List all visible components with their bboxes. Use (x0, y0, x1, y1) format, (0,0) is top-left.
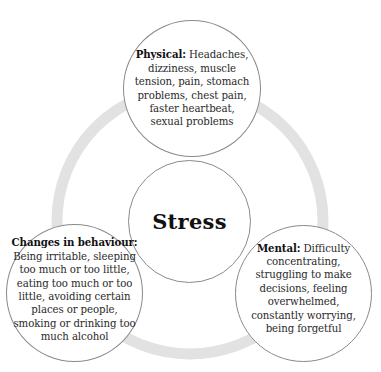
stress-title: Stress (152, 209, 227, 234)
mental-description: Difficulty concentrating, struggling to … (251, 243, 356, 334)
mental-heading: Mental: (257, 242, 300, 254)
behaviour-heading: Changes in behaviour: (12, 236, 138, 248)
stress-center-circle: Stress (128, 160, 251, 283)
physical-symptoms-circle: Physical: Headaches, dizziness, muscle t… (123, 20, 261, 157)
behaviour-changes-text: Changes in behaviour: Being irritable, s… (12, 236, 138, 343)
physical-heading: Physical: (136, 48, 186, 60)
physical-description: Headaches, dizziness, muscle tension, pa… (135, 49, 250, 127)
behaviour-changes-circle: Changes in behaviour: Being irritable, s… (6, 224, 143, 362)
mental-symptoms-circle: Mental: Difficulty concentrating, strugg… (235, 225, 372, 362)
mental-symptoms-text: Mental: Difficulty concentrating, strugg… (245, 242, 363, 336)
physical-symptoms-text: Physical: Headaches, dizziness, muscle t… (132, 48, 252, 128)
behaviour-description: Being irritable, sleeping too much or to… (13, 251, 136, 342)
